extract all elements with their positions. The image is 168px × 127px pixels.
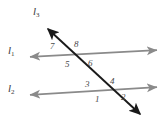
line-l3-transversal: [48, 29, 140, 114]
line-l1: [30, 50, 157, 57]
angle-label-1: 1: [95, 95, 100, 104]
line-label-l2: l2: [8, 83, 15, 94]
angle-label-6: 6: [88, 59, 93, 68]
angle-label-3: 3: [85, 80, 90, 89]
angle-label-7: 7: [50, 42, 55, 51]
line-label-l3: l3: [33, 6, 40, 17]
angle-label-8: 8: [74, 40, 79, 49]
angle-label-4: 4: [110, 77, 115, 86]
figure-canvas: [0, 0, 168, 127]
geometry-figure: l1 l2 l3 1 2 3 4 5 6 7 8: [0, 0, 168, 127]
angle-label-5: 5: [65, 60, 70, 69]
angle-label-2: 2: [121, 93, 126, 102]
line-l2: [30, 87, 157, 95]
line-label-l1: l1: [8, 45, 15, 56]
